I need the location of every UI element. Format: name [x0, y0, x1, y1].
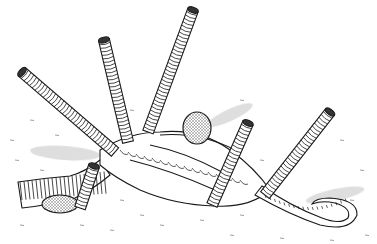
sediment-dash	[140, 215, 144, 216]
sediment-dash	[340, 140, 344, 141]
sediment-dash	[10, 140, 14, 141]
tube-left-center	[98, 36, 133, 143]
sediment-dash	[55, 135, 59, 136]
sediment-dash	[230, 235, 234, 236]
sediment-dash	[160, 225, 164, 226]
tube-far-right	[261, 106, 336, 198]
pebble	[42, 195, 78, 213]
sediment-dash	[80, 225, 84, 226]
egg-capsule	[183, 112, 211, 144]
sediment-dash	[365, 235, 369, 236]
sediment-dash	[15, 160, 19, 161]
sediment-dash	[200, 220, 204, 221]
sediment-dash	[40, 170, 44, 171]
illustration-canvas	[0, 0, 377, 244]
sediment-dash	[280, 238, 284, 239]
sediment-dash	[240, 215, 244, 216]
sediment-dash	[110, 230, 114, 231]
sediment-dash	[120, 200, 124, 201]
sediment-dash	[20, 225, 24, 226]
sediment-dash	[360, 170, 364, 171]
sediment-dash	[240, 100, 244, 101]
worm-tube-drawing	[0, 0, 377, 244]
sediment-dash	[130, 110, 134, 111]
sediment-dash	[330, 240, 334, 241]
sediment-dash	[30, 120, 34, 121]
shadow-left	[30, 144, 101, 163]
tube-far-left	[16, 66, 118, 156]
sediment-dash	[350, 200, 354, 201]
sediment-dash	[260, 160, 264, 161]
